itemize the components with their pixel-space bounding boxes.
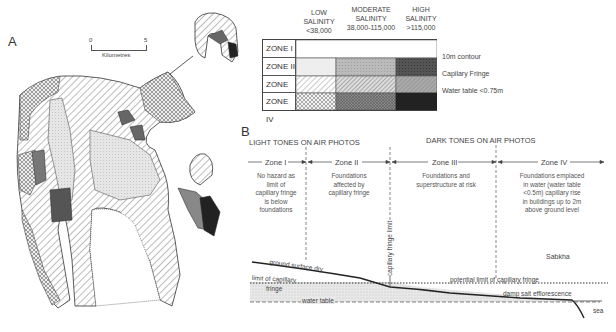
water-table-label: water table	[301, 297, 335, 304]
zone-1-description: No hazard aslimit ofcapillary fringeis b…	[250, 172, 302, 215]
zone-1-label: Zone I	[265, 158, 286, 167]
zone-4-description: Foundations emplacedin water (water tabl…	[510, 172, 594, 215]
zone-3-label: Zone III	[432, 158, 457, 167]
sabkha-label: Sabkha	[546, 253, 570, 260]
zone-4-label: Zone IV	[541, 158, 567, 167]
capillary-fringe-limit-label: capillary fringe limit	[386, 221, 393, 276]
sea-label: sea	[593, 307, 603, 314]
limit-capillary-label-2: fringe	[266, 285, 282, 292]
zone-3-description: Foundations andsuperstructure at risk	[402, 172, 490, 189]
damp-salt-label: damp salt efflorescence	[503, 290, 572, 297]
potential-limit-label: potential limit of capillary fringe	[450, 276, 539, 283]
zone-2-description: Foundationsaffected bycapillary fringe	[318, 172, 380, 198]
zone-2-label: Zone II	[335, 158, 358, 167]
